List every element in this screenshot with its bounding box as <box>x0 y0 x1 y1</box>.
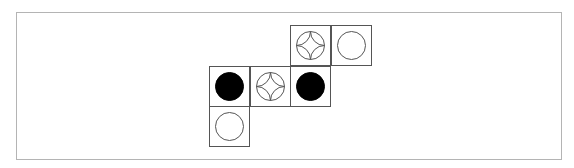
game-board <box>0 0 574 168</box>
board-cell-r2-c0[interactable] <box>209 106 250 147</box>
four-point-star-in-circle-icon <box>251 67 290 106</box>
board-cell-r0-c2[interactable] <box>290 25 331 66</box>
board-cell-r0-c3[interactable] <box>331 25 372 66</box>
filled-black-circle-icon <box>291 67 330 106</box>
empty-white-circle-icon <box>210 107 249 146</box>
four-point-star-in-circle-icon <box>291 26 330 65</box>
board-cell-r1-c1[interactable] <box>250 66 291 107</box>
filled-black-circle-icon <box>210 67 249 106</box>
board-cell-r1-c2[interactable] <box>290 66 331 107</box>
empty-white-circle-icon <box>332 26 371 65</box>
board-cell-r1-c0[interactable] <box>209 66 250 107</box>
